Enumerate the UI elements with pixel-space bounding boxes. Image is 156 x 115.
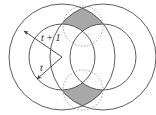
outer-radius-label: t + 1 <box>41 32 61 43</box>
inner-radius-label: t <box>40 62 43 73</box>
diagram-canvas: t + 1 t <box>0 0 156 115</box>
geometry-diagram: t + 1 t <box>0 0 156 115</box>
